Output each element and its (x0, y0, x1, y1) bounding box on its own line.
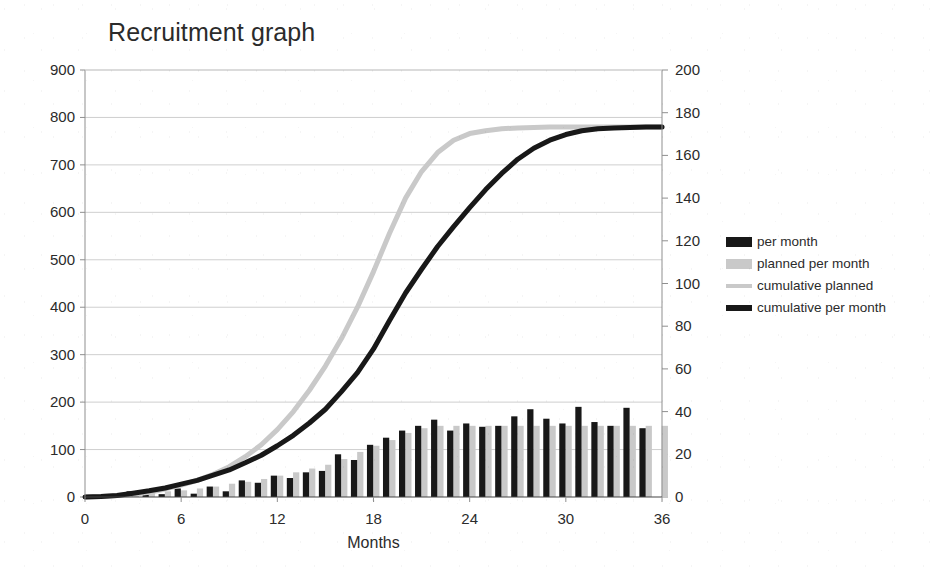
legend-label-planned-per-month: planned per month (757, 257, 870, 271)
svg-text:180: 180 (675, 104, 700, 121)
svg-text:24: 24 (461, 510, 478, 527)
svg-text:160: 160 (675, 146, 700, 163)
x-axis-ticks: 061218243036 (81, 497, 671, 527)
legend-label-per-month: per month (757, 235, 818, 249)
legend-label-cumulative-per-month: cumulative per month (757, 301, 886, 315)
legend-item-planned-per-month[interactable]: planned per month (726, 253, 926, 274)
svg-text:800: 800 (50, 108, 75, 125)
svg-text:900: 900 (50, 61, 75, 78)
svg-text:60: 60 (675, 360, 692, 377)
svg-text:40: 40 (675, 403, 692, 420)
legend-item-cumulative-planned[interactable]: cumulative planned (726, 275, 926, 296)
chart-legend: per month planned per month cumulative p… (726, 231, 926, 319)
svg-text:20: 20 (675, 445, 692, 462)
svg-text:18: 18 (365, 510, 382, 527)
legend-label-cumulative-planned: cumulative planned (757, 279, 873, 293)
svg-text:0: 0 (67, 488, 75, 505)
left-axis-ticks: 0100200300400500600700800900 (50, 61, 85, 505)
legend-swatch-cumulative-per-month-icon (726, 305, 752, 311)
legend-item-per-month[interactable]: per month (726, 231, 926, 252)
svg-text:200: 200 (50, 393, 75, 410)
svg-text:200: 200 (675, 61, 700, 78)
svg-text:30: 30 (557, 510, 574, 527)
svg-text:400: 400 (50, 298, 75, 315)
legend-item-cumulative-per-month[interactable]: cumulative per month (726, 297, 926, 318)
svg-text:36: 36 (654, 510, 671, 527)
legend-swatch-per-month-icon (726, 237, 752, 247)
svg-text:80: 80 (675, 317, 692, 334)
svg-text:0: 0 (81, 510, 89, 527)
svg-text:300: 300 (50, 346, 75, 363)
svg-text:100: 100 (675, 275, 700, 292)
svg-text:500: 500 (50, 251, 75, 268)
svg-text:100: 100 (50, 441, 75, 458)
svg-text:140: 140 (675, 189, 700, 206)
svg-text:6: 6 (177, 510, 185, 527)
legend-swatch-planned-per-month-icon (726, 259, 752, 269)
svg-text:0: 0 (675, 488, 683, 505)
legend-swatch-cumulative-planned-icon (726, 284, 752, 288)
recruitment-chart: Recruitment graph 0100200300400500600700… (0, 0, 933, 582)
svg-text:700: 700 (50, 156, 75, 173)
svg-text:12: 12 (269, 510, 286, 527)
svg-text:600: 600 (50, 203, 75, 220)
svg-text:120: 120 (675, 232, 700, 249)
x-axis-title: Months (347, 534, 399, 551)
